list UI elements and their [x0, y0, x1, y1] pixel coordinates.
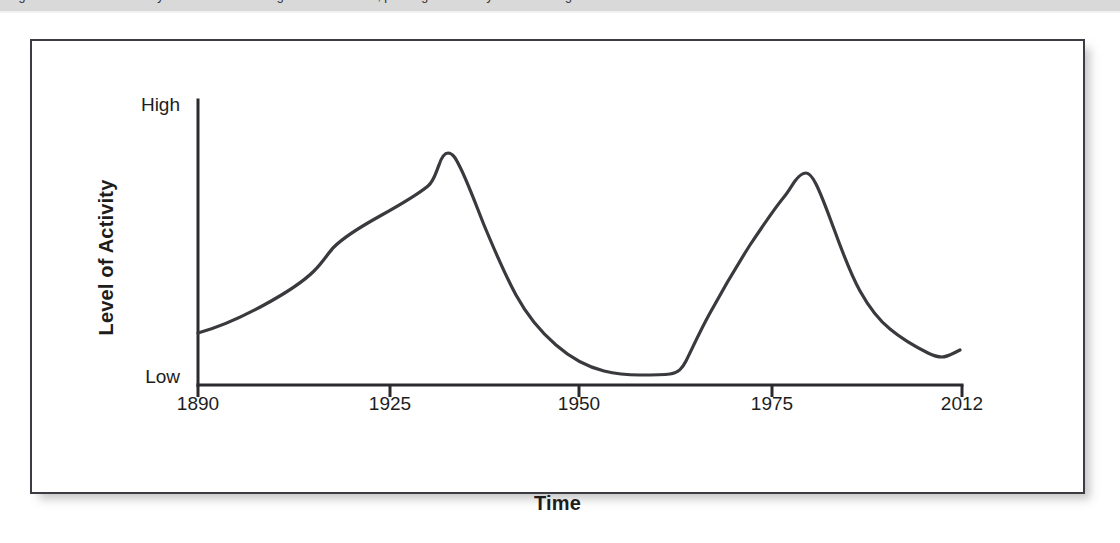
activity-line-chart [32, 41, 1083, 492]
x-tick-label-2012: 2012 [907, 393, 1017, 415]
y-axis-title: Level of Activity [95, 138, 118, 378]
y-axis-low-label: Low [118, 366, 180, 388]
x-axis-title: Time [32, 492, 1083, 515]
y-axis-high-label: High [118, 94, 180, 116]
x-tick-label-1890: 1890 [143, 393, 253, 415]
x-tick-label-1975: 1975 [717, 393, 827, 415]
caption-underline [0, 11, 1120, 13]
activity-curve [198, 153, 960, 375]
x-tick-label-1925: 1925 [335, 393, 445, 415]
x-tick-label-1950: 1950 [524, 393, 634, 415]
figure-panel: High Low Level of Activity 1890 1925 195… [30, 39, 1085, 494]
figure-caption-band: Figure 1 The level of activity rises and… [0, 0, 1120, 11]
figure-caption-text: Figure 1 The level of activity rises and… [8, 0, 1112, 4]
plot-area: High Low Level of Activity 1890 1925 195… [32, 41, 1083, 492]
